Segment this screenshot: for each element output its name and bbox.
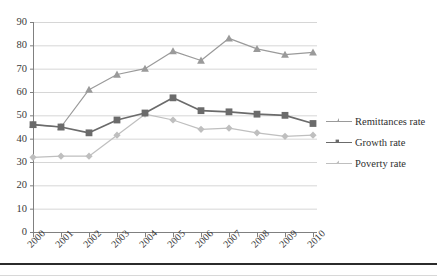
data-point-marker: [254, 111, 261, 118]
data-point-marker: [336, 139, 339, 142]
data-point-marker: [141, 65, 149, 72]
data-point-marker: [170, 94, 177, 101]
legend-item-poverty-rate[interactable]: Poverty rate: [326, 153, 434, 174]
legend-item-remittances-rate[interactable]: Remittances rate: [326, 111, 434, 132]
footer-rule: [0, 263, 437, 265]
data-point-marker: [225, 34, 233, 41]
data-point-marker: [253, 129, 260, 136]
series-line: [33, 98, 313, 133]
legend-marker-square-icon: [326, 136, 352, 150]
data-point-marker: [57, 153, 64, 160]
footer-rule-secondary: [0, 275, 437, 276]
diamond-icon: [332, 157, 339, 164]
square-icon: [332, 136, 339, 143]
data-point-marker: [85, 86, 93, 93]
data-point-marker: [169, 116, 176, 123]
data-point-marker: [335, 160, 339, 164]
data-point-marker: [114, 117, 121, 124]
legend-item-label: Growth rate: [352, 137, 405, 148]
line-chart: 0102030405060708090 20002001200220032004…: [0, 0, 437, 277]
data-point-marker: [29, 154, 36, 161]
data-point-marker: [169, 47, 177, 54]
triangle-icon: [332, 115, 339, 122]
data-point-marker: [142, 110, 149, 117]
data-point-marker: [198, 107, 205, 114]
data-point-marker: [30, 121, 37, 128]
data-point-marker: [226, 108, 233, 115]
series-poverty-rate: [29, 111, 316, 161]
data-point-marker: [58, 124, 65, 131]
legend-item-label: Poverty rate: [352, 158, 406, 169]
data-point-marker: [309, 132, 316, 139]
legend-item-label: Remittances rate: [352, 116, 425, 127]
legend-marker-diamond-icon: [326, 157, 352, 171]
legend-item-growth-rate[interactable]: Growth rate: [326, 132, 434, 153]
legend-marker-triangle-icon: [326, 115, 352, 129]
data-point-marker: [335, 118, 339, 122]
data-point-marker: [282, 112, 289, 119]
data-point-marker: [197, 126, 204, 133]
data-point-marker: [225, 125, 232, 132]
chart-legend: Remittances rateGrowth ratePoverty rate: [326, 111, 434, 174]
data-point-marker: [310, 120, 317, 127]
data-point-marker: [86, 129, 93, 136]
